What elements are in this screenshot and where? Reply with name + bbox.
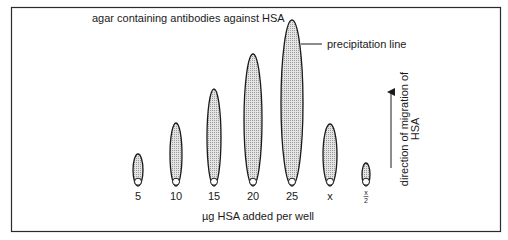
well-circle — [289, 178, 296, 185]
well-circle — [135, 178, 142, 185]
precipitation-ring — [207, 89, 221, 186]
precipitation-ring — [362, 163, 370, 186]
precipitation-ring — [281, 20, 303, 186]
well-circle — [363, 178, 370, 185]
well-label-numerator: x — [364, 189, 368, 196]
precipitation-ring — [323, 124, 337, 186]
well-label: 5 — [135, 190, 141, 202]
precipitation-label: precipitation line — [327, 38, 407, 50]
precipitation-ring — [133, 154, 143, 186]
well-circle — [327, 178, 334, 185]
well-label: 15 — [208, 190, 220, 202]
x-axis-label: µg HSA added per well — [202, 210, 314, 222]
well-circle — [211, 178, 218, 185]
well-circle — [173, 178, 180, 185]
well-label: 25 — [286, 190, 298, 202]
agar-title: agar containing antibodies against HSA — [92, 12, 285, 24]
well-label: 10 — [170, 190, 182, 202]
well-label: x — [327, 190, 333, 202]
precipitation-ring — [170, 123, 182, 186]
well-label-denominator: 2 — [364, 197, 368, 204]
well-label: 20 — [247, 190, 259, 202]
well-circle — [250, 178, 257, 185]
direction-label-hsa: HSA — [409, 117, 421, 140]
radial-immunodiffusion-diagram: agar containing antibodies against HSA p… — [0, 0, 508, 240]
precipitation-ring — [244, 54, 262, 186]
